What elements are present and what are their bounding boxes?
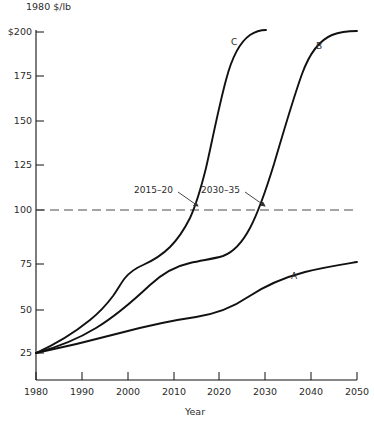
y-axis-ticks — [36, 32, 44, 353]
x-axis-ticks — [36, 372, 357, 380]
series-label-c: C — [231, 38, 237, 47]
x-tick-label-2000: 2000 — [108, 387, 148, 397]
y-tick-label-175: 175 — [0, 71, 32, 81]
y-tick-label-50: 50 — [0, 305, 32, 315]
y-tick-label-200: $200 — [0, 27, 32, 37]
series-line-a — [36, 262, 357, 353]
x-tick-label-2050: 2050 — [337, 387, 374, 397]
x-tick-label-2030: 2030 — [245, 387, 285, 397]
series-label-b: B — [316, 42, 322, 51]
annotation-2015-20: 2015–20 — [134, 186, 173, 195]
y-tick-label-75: 75 — [0, 259, 32, 269]
y-tick-label-150: 150 — [0, 116, 32, 126]
x-axis-title: Year — [165, 407, 225, 417]
series-label-a: A — [291, 272, 297, 281]
x-tick-label-1990: 1990 — [62, 387, 102, 397]
x-tick-label-2020: 2020 — [199, 387, 239, 397]
x-tick-label-2010: 2010 — [154, 387, 194, 397]
x-tick-label-2040: 2040 — [291, 387, 331, 397]
y-tick-label-25: 25 — [0, 348, 32, 358]
annotation-2030-35: 2030–35 — [201, 186, 240, 195]
series-line-b — [36, 31, 357, 353]
y-tick-label-100: 100 — [0, 205, 32, 215]
chart-title: 1980 $/lb — [26, 2, 71, 12]
x-tick-label-1980: 1980 — [16, 387, 56, 397]
y-tick-label-125: 125 — [0, 160, 32, 170]
annotation-leader-2015-20 — [178, 192, 198, 206]
